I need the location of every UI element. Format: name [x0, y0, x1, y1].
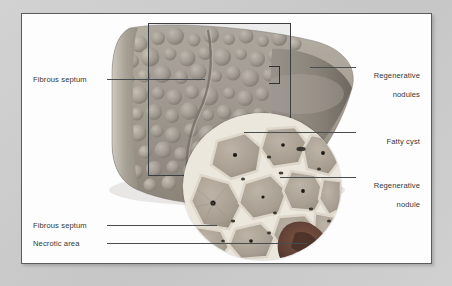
- illustration-plate: Fibrous septum Fibrous septum Necrotic a…: [21, 13, 432, 264]
- label-regenerative-nodules-line2: nodules: [324, 90, 420, 99]
- label-regenerative-nodules: Regenerative nodules: [324, 62, 420, 109]
- label-necrotic-area: Necrotic area: [33, 239, 79, 248]
- label-regenerative-nodules-line1: Regenerative: [324, 71, 420, 80]
- histology-drawing: [183, 113, 341, 260]
- histology-magnification-inset: [183, 113, 341, 260]
- leader-fibrous-septum-bottom: [107, 225, 217, 226]
- label-fatty-cyst-line1: Fatty cyst: [324, 137, 420, 146]
- label-fibrous-septum-top: Fibrous septum: [33, 75, 87, 84]
- magnification-bracket: [269, 66, 280, 84]
- label-fibrous-septum-bottom: Fibrous septum: [33, 221, 87, 230]
- label-regenerative-nodule-line2: nodule: [324, 200, 420, 209]
- illustration-figure: Fibrous septum Fibrous septum Necrotic a…: [0, 0, 452, 286]
- label-fatty-cyst: Fatty cyst: [324, 128, 420, 156]
- label-regenerative-nodule: Regenerative nodule: [324, 172, 420, 219]
- leader-fibrous-septum-top: [107, 79, 205, 80]
- label-regenerative-nodule-line1: Regenerative: [324, 181, 420, 190]
- leader-necrotic-area: [107, 243, 307, 244]
